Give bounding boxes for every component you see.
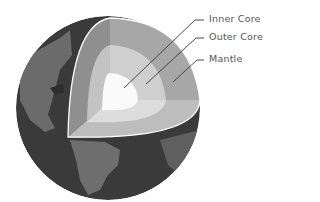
label-inner-core: Inner Core [209,13,261,24]
label-outer-core: Outer Core [209,31,263,42]
cutaway [68,18,200,137]
label-mantle: Mantle [209,53,242,64]
